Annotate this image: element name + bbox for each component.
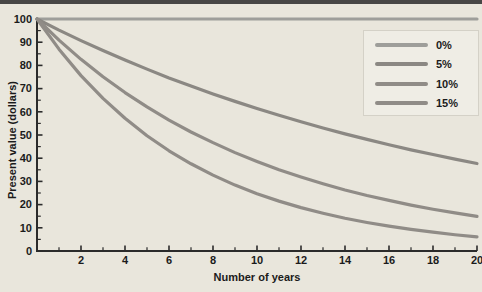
x-tick-label: 20 <box>471 254 482 266</box>
legend-swatch <box>375 62 428 66</box>
x-tick-label: 8 <box>210 254 216 266</box>
x-tick-label: 14 <box>339 254 352 266</box>
legend: 0% 5% 10% 15% <box>363 30 479 116</box>
x-tick-label: 18 <box>427 254 439 266</box>
y-tick-label: 90 <box>20 36 32 48</box>
legend-item: 0% <box>375 35 478 55</box>
legend-label: 0% <box>436 39 452 51</box>
x-axis-title: Number of years <box>214 271 301 283</box>
legend-item: 10% <box>375 74 478 94</box>
y-tick-label: 70 <box>20 82 32 94</box>
legend-label: 5% <box>436 58 452 70</box>
y-tick-label: 10 <box>20 222 32 234</box>
x-tick-label: 4 <box>122 254 129 266</box>
y-tick-label: 50 <box>20 129 32 141</box>
y-tick-label: 30 <box>20 175 32 187</box>
x-tick-label: 12 <box>295 254 307 266</box>
legend-item: 5% <box>375 55 478 75</box>
legend-swatch <box>375 101 428 105</box>
y-tick-label: 20 <box>20 198 32 210</box>
y-tick-label: 80 <box>20 59 32 71</box>
x-tick-label: 2 <box>78 254 84 266</box>
x-tick-label: 16 <box>383 254 395 266</box>
legend-label: 15% <box>436 97 458 109</box>
y-tick-label: 60 <box>20 106 32 118</box>
legend-swatch <box>375 82 428 86</box>
x-tick-label: 10 <box>251 254 263 266</box>
legend-label: 10% <box>436 78 458 90</box>
y-tick-label: 40 <box>20 152 32 164</box>
legend-item: 15% <box>375 94 478 114</box>
y-axis-title: Present value (dollars) <box>6 81 18 199</box>
y-tick-label: 0 <box>26 245 32 257</box>
figure: 24681012141618200102030405060708090100 P… <box>0 0 482 292</box>
x-tick-label: 6 <box>166 254 172 266</box>
legend-swatch <box>375 43 428 47</box>
y-tick-label: 100 <box>14 13 32 25</box>
